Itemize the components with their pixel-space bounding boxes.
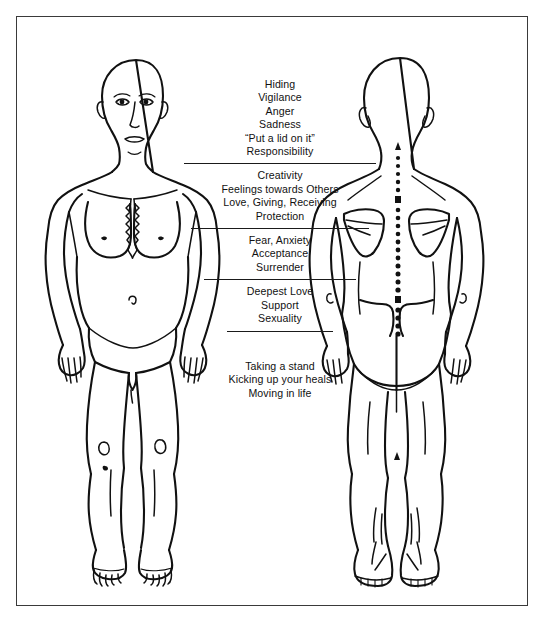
text-line: Creativity — [184, 169, 376, 182]
text-line: Protection — [184, 210, 376, 223]
text-line: Fear, Anxiety — [184, 234, 376, 247]
text-group-pelvis: Deepest Love Support Sexuality — [184, 285, 376, 325]
text-line: Vigilance — [184, 91, 376, 104]
text-column: Hiding Vigilance Anger Sadness “Put a li… — [184, 78, 376, 337]
text-group-solar-plexus: Fear, Anxiety Acceptance Surrender — [184, 234, 376, 274]
divider-rule — [227, 331, 333, 332]
text-group-head-chest: Hiding Vigilance Anger Sadness “Put a li… — [184, 78, 376, 158]
text-line: “Put a lid on it” — [184, 132, 376, 145]
divider-rule — [191, 228, 369, 229]
text-group-heart: Creativity Feelings towards Others Love,… — [184, 169, 376, 223]
text-line: Anger — [184, 105, 376, 118]
text-line: Love, Giving, Receiving — [184, 196, 376, 209]
text-group-legs: Taking a stand Kicking up your heals Mov… — [184, 360, 376, 400]
divider-rule — [204, 279, 356, 280]
text-line: Support — [184, 299, 376, 312]
text-line: Surrender — [184, 261, 376, 274]
text-line: Deepest Love — [184, 285, 376, 298]
text-line: Moving in life — [184, 387, 376, 400]
text-line: Acceptance — [184, 247, 376, 260]
text-line: Sexuality — [184, 312, 376, 325]
text-line: Kicking up your heals — [184, 373, 376, 386]
text-line: Taking a stand — [184, 360, 376, 373]
diagram-canvas: Hiding Vigilance Anger Sadness “Put a li… — [0, 0, 544, 632]
text-line: Responsibility — [184, 145, 376, 158]
text-line: Sadness — [184, 118, 376, 131]
text-line: Feelings towards Others — [184, 183, 376, 196]
divider-rule — [184, 163, 376, 164]
text-line: Hiding — [184, 78, 376, 91]
